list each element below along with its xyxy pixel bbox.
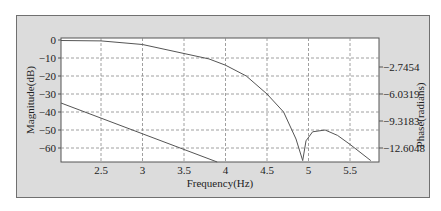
x-axis-ticks: 2.533.544.555.5: [94, 164, 357, 176]
x-tick-label: 5.5: [343, 164, 357, 176]
x-tick-label: 2.5: [94, 164, 108, 176]
y-tick-label: −40: [39, 106, 57, 118]
x-tick-label: 4: [223, 164, 229, 176]
y2-tick-label: −2.7454: [383, 61, 420, 73]
y-tick-label: −60: [39, 142, 57, 154]
bode-plot: 0−10−20−30−40−50−60 −2.7454−6.0319−9.318…: [0, 0, 441, 211]
x-tick-label: 5: [306, 164, 312, 176]
y-tick-label: −50: [39, 124, 57, 136]
x-tick-label: 4.5: [260, 164, 274, 176]
x-axis-label: Frequency(Hz): [187, 177, 254, 190]
y-tick-label: 0: [51, 34, 57, 46]
y-tick-label: −20: [39, 70, 57, 82]
x-tick-label: 3: [140, 164, 146, 176]
y2-axis-label: Phase(radians): [414, 82, 427, 147]
y-tick-label: −10: [39, 52, 57, 64]
x-tick-label: 3.5: [177, 164, 191, 176]
y-axis-ticks: 0−10−20−30−40−50−60: [39, 34, 61, 154]
y-axis-label: Magnitude(dB): [24, 66, 37, 134]
plot-area: [61, 38, 379, 162]
y-tick-label: −30: [39, 88, 57, 100]
